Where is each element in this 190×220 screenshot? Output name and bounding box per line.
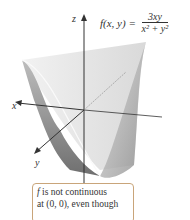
y-axis-label: y xyxy=(35,157,39,168)
formula-fraction: 3xy x² + y² xyxy=(142,11,169,34)
surface-figure: z x y f(x, y) = 3xy x² + y² f is not con… xyxy=(0,0,190,220)
z-axis-label: z xyxy=(72,13,76,24)
z-arrow-icon xyxy=(81,14,87,21)
callout-line1: is not continuous xyxy=(40,187,107,197)
callout-box: f is not continuous at (0, 0), even thou… xyxy=(32,183,134,220)
formula-numerator: 3xy xyxy=(142,11,169,23)
callout-line2: at (0, 0), even though xyxy=(37,198,129,210)
x-axis-label: x xyxy=(12,100,16,111)
formula-lhs: f(x, y) = xyxy=(100,17,136,29)
formula-denominator: x² + y² xyxy=(142,23,169,34)
function-formula: f(x, y) = 3xy x² + y² xyxy=(100,11,168,34)
